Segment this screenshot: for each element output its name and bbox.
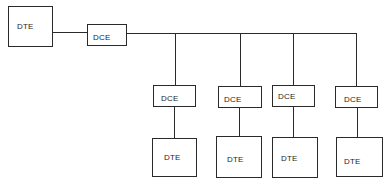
branch-dce-box-2: DCE	[218, 86, 262, 108]
bus-drop-line-4	[356, 33, 357, 86]
source-dce-label: DCE	[93, 33, 111, 42]
branch-dte-label-4: DTE	[344, 157, 361, 166]
link-dte-to-dce	[52, 32, 87, 33]
dte-dce-network-diagram: DTE DCE DCE DCE DCE DCE DTE DTE DTE DTE	[0, 0, 385, 183]
source-dce-box: DCE	[87, 24, 127, 46]
branch-dte-box-2: DTE	[216, 136, 262, 178]
branch-dce-box-4: DCE	[335, 86, 378, 108]
shared-bus-line	[126, 33, 357, 34]
dce-dte-link-3	[293, 106, 294, 137]
branch-dte-label-1: DTE	[164, 153, 181, 162]
source-dte-box: DTE	[8, 6, 53, 47]
branch-dce-box-1: DCE	[153, 85, 196, 107]
branch-dce-label-4: DCE	[344, 95, 362, 104]
dce-dte-link-1	[174, 106, 175, 138]
branch-dce-label-2: DCE	[224, 95, 242, 104]
branch-dte-box-4: DTE	[336, 137, 383, 177]
bus-drop-line-1	[175, 33, 176, 85]
branch-dte-box-1: DTE	[152, 138, 197, 177]
source-dte-label: DTE	[17, 22, 34, 31]
branch-dce-box-3: DCE	[272, 85, 315, 107]
dce-dte-link-2	[239, 108, 240, 136]
branch-dce-label-1: DCE	[161, 94, 179, 103]
dce-dte-link-4	[357, 107, 358, 137]
branch-dte-label-2: DTE	[227, 155, 244, 164]
branch-dte-box-3: DTE	[272, 137, 318, 178]
bus-drop-line-3	[293, 33, 294, 85]
branch-dce-label-3: DCE	[278, 92, 296, 101]
bus-drop-line-2	[240, 33, 241, 86]
branch-dte-label-3: DTE	[281, 154, 298, 163]
